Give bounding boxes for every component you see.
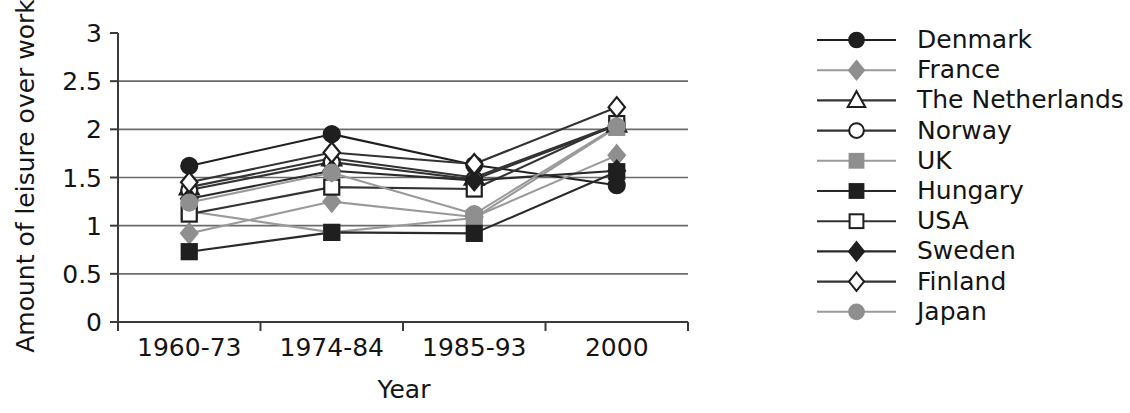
x-tick-label: 2000 <box>585 333 649 362</box>
legend-label: Japan <box>915 297 987 326</box>
marker-filled-circle <box>324 126 340 142</box>
marker-filled-diamond <box>849 242 864 260</box>
legend-item[interactable]: Finland <box>817 267 1006 296</box>
y-tick-label: 0.5 <box>62 260 102 289</box>
legend-item[interactable]: Japan <box>817 297 987 326</box>
marker-filled-circle <box>181 195 197 211</box>
marker-filled-diamond <box>849 61 864 79</box>
x-tick-label: 1960-73 <box>137 333 241 362</box>
marker-filled-circle <box>849 33 864 48</box>
x-tick-label: 1974-84 <box>280 333 384 362</box>
marker-open-circle <box>849 123 864 138</box>
legend-item[interactable]: Hungary <box>817 176 1024 205</box>
marker-filled-circle <box>609 118 625 134</box>
legend-label: USA <box>917 206 969 235</box>
legend-label: Hungary <box>917 176 1024 205</box>
marker-filled-square <box>850 154 864 168</box>
legend-item[interactable]: Sweden <box>817 236 1016 265</box>
legend-item[interactable]: Norway <box>817 116 1012 145</box>
chart-legend: DenmarkFranceThe NetherlandsNorwayUKHung… <box>817 25 1124 326</box>
x-axis-title: Year <box>377 375 432 404</box>
marker-open-triangle <box>848 91 865 107</box>
legend-label: France <box>917 55 1000 84</box>
legend-item[interactable]: France <box>817 55 1000 84</box>
y-axis-title: Amount of leisure over work <box>11 0 40 353</box>
y-tick-label: 0 <box>86 308 102 337</box>
legend-item[interactable]: USA <box>817 206 969 235</box>
leisure-over-work-line-chart: 00.511.522.53 1960-731974-841985-932000 … <box>0 0 1130 413</box>
x-tick-labels: 1960-731974-841985-932000 <box>137 333 649 362</box>
y-tick-label: 2 <box>86 115 102 144</box>
legend-label: The Netherlands <box>916 85 1124 114</box>
series-line <box>189 127 617 232</box>
series-markers-the-netherlands <box>180 115 627 195</box>
y-tick-label: 1.5 <box>62 164 102 193</box>
legend-label: Denmark <box>917 25 1032 54</box>
series-uk <box>189 127 617 232</box>
marker-open-diamond <box>609 97 625 117</box>
legend-item[interactable]: The Netherlands <box>817 85 1124 114</box>
gridlines <box>118 81 688 322</box>
y-tick-label: 1 <box>86 212 102 241</box>
legend-label: Norway <box>917 116 1012 145</box>
legend-label: Sweden <box>917 236 1016 265</box>
marker-filled-square <box>467 226 482 241</box>
chart-canvas: 00.511.522.53 1960-731974-841985-932000 … <box>0 0 1130 413</box>
legend-item[interactable]: Denmark <box>817 25 1032 54</box>
marker-filled-circle <box>324 165 340 181</box>
marker-open-square <box>850 214 864 228</box>
marker-open-diamond <box>849 272 864 290</box>
marker-filled-circle <box>849 304 864 319</box>
marker-filled-square <box>850 184 864 198</box>
x-tick-label: 1985-93 <box>422 333 526 362</box>
legend-item[interactable]: UK <box>817 146 952 175</box>
legend-label: Finland <box>917 267 1006 296</box>
series-markers-denmark <box>181 126 625 193</box>
y-tick-label: 3 <box>86 19 102 48</box>
y-tick-label: 2.5 <box>62 67 102 96</box>
marker-filled-circle <box>466 206 482 222</box>
marker-filled-square <box>182 244 197 259</box>
y-tick-labels: 00.511.522.53 <box>62 19 102 337</box>
marker-filled-square <box>324 225 339 240</box>
legend-label: UK <box>917 146 952 175</box>
